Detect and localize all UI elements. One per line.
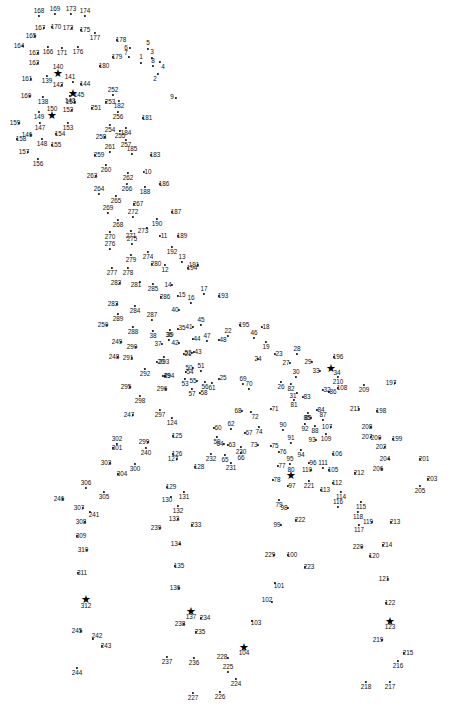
dot-label-198: 198 — [376, 408, 387, 414]
dot-label-279: 279 — [126, 257, 137, 263]
dot-label-140: 140 — [53, 64, 64, 70]
dot-label-266: 266 — [122, 186, 133, 192]
dot-label-61: 61 — [208, 385, 215, 391]
dot-label-259: 259 — [94, 152, 105, 158]
dot-label-302: 302 — [112, 436, 123, 442]
dot-label-290: 290 — [127, 344, 138, 350]
dot-7 — [128, 56, 130, 58]
dot-label-261: 261 — [105, 144, 116, 150]
dot-label-232: 232 — [206, 456, 217, 462]
dot-label-306: 306 — [81, 480, 92, 486]
dot-label-187: 187 — [171, 209, 182, 215]
dot-label-1: 1 — [139, 54, 143, 60]
dot-label-48: 48 — [219, 337, 226, 343]
dot-label-235: 235 — [195, 629, 206, 635]
dot-label-23: 23 — [275, 351, 282, 357]
dot-label-249: 249 — [112, 339, 123, 345]
dot-label-238: 238 — [175, 621, 186, 627]
dot-label-39: 39 — [166, 332, 173, 338]
dot-label-242: 242 — [92, 633, 103, 639]
dot-label-278: 278 — [123, 270, 134, 276]
dot-label-74: 74 — [255, 429, 262, 435]
dot-51 — [200, 370, 202, 372]
dot-label-58: 58 — [200, 390, 207, 396]
dot-label-207: 207 — [362, 434, 373, 440]
dot-label-216: 216 — [393, 663, 404, 669]
dot-95 — [289, 463, 291, 465]
dot-label-221: 221 — [304, 483, 315, 489]
dot-label-277: 277 — [107, 270, 118, 276]
dot-label-11: 11 — [161, 233, 168, 239]
dot-label-5: 5 — [146, 40, 150, 46]
dot-label-117: 117 — [354, 527, 364, 533]
dot-272 — [132, 216, 134, 218]
dot-label-226: 226 — [215, 694, 226, 700]
dot-label-158: 158 — [16, 136, 27, 142]
dot-label-233: 233 — [191, 522, 202, 528]
dot-label-307: 307 — [74, 505, 85, 511]
dot-label-30: 30 — [292, 369, 299, 375]
dot-36 — [168, 339, 170, 341]
dot-label-8: 8 — [151, 58, 155, 64]
dot-label-157: 157 — [19, 149, 30, 155]
dot-label-137: 137 — [186, 614, 197, 620]
dot-label-311: 311 — [77, 570, 87, 576]
dot-label-280: 280 — [151, 261, 162, 267]
dot-label-91: 91 — [287, 435, 294, 441]
dot-label-33: 33 — [312, 368, 319, 374]
dot-label-160: 160 — [21, 93, 32, 99]
dot-22 — [227, 335, 229, 337]
dot-label-42: 42 — [171, 340, 178, 346]
dot-label-121: 121 — [379, 576, 390, 582]
dot-label-299: 299 — [139, 439, 150, 445]
dot-label-65: 65 — [221, 457, 228, 463]
dot-label-82: 82 — [287, 386, 294, 392]
dot-label-229: 229 — [265, 552, 276, 558]
dot-label-296: 296 — [157, 386, 168, 392]
dot-label-225: 225 — [223, 664, 234, 670]
dot-label-134: 134 — [171, 541, 182, 547]
dot-17 — [203, 293, 205, 295]
dot-174 — [84, 15, 86, 17]
dot-label-262: 262 — [123, 175, 134, 181]
dot-label-276: 276 — [105, 241, 116, 247]
dot-label-176: 176 — [73, 49, 84, 55]
dot-label-301: 301 — [112, 445, 123, 451]
dot-label-41: 41 — [185, 324, 192, 330]
dot-2 — [157, 73, 159, 75]
dot-label-287: 287 — [147, 312, 158, 318]
dot-label-310: 310 — [78, 547, 89, 553]
dot-label-300: 300 — [130, 466, 141, 472]
dot-label-7: 7 — [124, 50, 128, 56]
dot-label-181: 181 — [142, 115, 153, 121]
dot-label-159: 159 — [10, 120, 21, 126]
dot-label-180: 180 — [99, 63, 110, 69]
dot-label-166: 166 — [43, 49, 54, 55]
dot-label-3: 3 — [150, 49, 154, 55]
dot-label-219: 219 — [373, 637, 384, 643]
dot-label-152: 152 — [63, 107, 74, 113]
dot-label-127: 127 — [168, 456, 179, 462]
dot-label-237: 237 — [162, 659, 173, 665]
dot-label-209: 209 — [359, 387, 370, 393]
dot-label-240: 240 — [141, 450, 152, 456]
dot-label-195: 195 — [239, 322, 250, 328]
dot-30 — [295, 376, 297, 378]
dot-label-16: 16 — [187, 295, 194, 301]
dot-label-10: 10 — [144, 169, 151, 175]
dot-label-190: 190 — [152, 221, 163, 227]
dot-label-222: 222 — [295, 517, 306, 523]
dot-label-234: 234 — [200, 615, 211, 621]
dot-label-298: 298 — [135, 398, 146, 404]
dot-label-230: 230 — [236, 449, 247, 455]
dot-label-202: 202 — [376, 444, 387, 450]
dot-label-263: 263 — [87, 173, 98, 179]
dot-label-161: 161 — [22, 76, 33, 82]
dot-label-305: 305 — [99, 494, 110, 500]
dot-label-294: 294 — [164, 373, 175, 379]
dot-label-88: 88 — [311, 428, 318, 434]
dot-label-241: 241 — [89, 512, 100, 518]
dot-label-125: 125 — [172, 433, 183, 439]
dot-label-136: 136 — [170, 585, 181, 591]
dot-label-208: 208 — [362, 424, 373, 430]
